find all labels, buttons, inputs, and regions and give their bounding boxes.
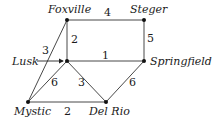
edge-weight-label: 6 — [51, 76, 58, 89]
node-label-mystic: Mystic — [13, 105, 51, 118]
node-label-springfield: Springfield — [150, 55, 212, 68]
edge-weight-label: 5 — [147, 32, 154, 45]
edge-weight-label: 2 — [64, 105, 71, 118]
node-label-steger: Steger — [130, 3, 168, 16]
node-lusk — [65, 59, 69, 63]
edge-weight-label: 3 — [78, 76, 85, 89]
edge-weight-label: 2 — [71, 33, 78, 46]
node-foxville — [65, 18, 69, 22]
weighted-graph-diagram: 423156326FoxvilleStegerLuskSpringfieldMy… — [0, 0, 213, 120]
node-mystic — [26, 100, 30, 104]
edge-weight-label: 4 — [104, 6, 111, 19]
node-label-foxville: Foxville — [47, 3, 92, 16]
node-springfield — [142, 59, 146, 63]
node-label-delrio: Del Rio — [88, 105, 130, 118]
edge-lusk-delrio — [67, 61, 106, 102]
node-label-lusk: Lusk — [11, 55, 39, 68]
edge-weight-label: 6 — [129, 76, 136, 89]
node-delrio — [104, 100, 108, 104]
edge-delrio-springfield — [106, 61, 144, 102]
node-steger — [142, 18, 146, 22]
edge-weight-label: 1 — [102, 49, 109, 62]
edge-weight-label: 3 — [42, 44, 49, 57]
